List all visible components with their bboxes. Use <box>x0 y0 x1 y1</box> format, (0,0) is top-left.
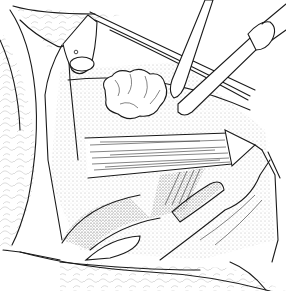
surgical-instrument-right <box>178 4 286 115</box>
bottom-fat-layer <box>20 252 286 291</box>
illustration-svg <box>0 0 286 291</box>
surgical-illustration <box>0 0 286 291</box>
